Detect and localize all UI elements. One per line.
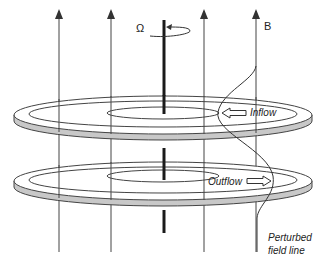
arrow-up-icon <box>200 9 208 19</box>
arrow-up-icon <box>252 9 260 19</box>
inflow-label: Inflow <box>250 107 277 118</box>
perturbed-label-line1: Perturbed <box>268 232 312 243</box>
perturbed-field-line <box>218 66 274 252</box>
arrow-up-icon <box>107 9 115 19</box>
perturbed-label-line2: field line <box>268 245 305 256</box>
b-field-label: B <box>264 20 271 32</box>
diagram-canvas: Ω B Inflow Outflow Perturbed field line <box>0 0 323 267</box>
omega-label: Ω <box>136 22 144 34</box>
field-arrowheads <box>55 9 260 19</box>
rotation-arrow-icon <box>150 24 190 37</box>
outflow-label: Outflow <box>208 176 243 187</box>
accretion-disc-diagram: Ω B Inflow Outflow Perturbed field line <box>0 0 323 267</box>
arrow-up-icon <box>55 9 63 19</box>
